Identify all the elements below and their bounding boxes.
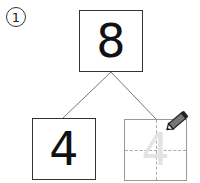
answer-trace-digit: 4 bbox=[142, 128, 170, 172]
known-part-number: 4 bbox=[49, 126, 78, 172]
whole-number-box: 8 bbox=[79, 10, 143, 72]
known-part-box: 4 bbox=[32, 118, 96, 180]
whole-number: 8 bbox=[96, 18, 125, 64]
